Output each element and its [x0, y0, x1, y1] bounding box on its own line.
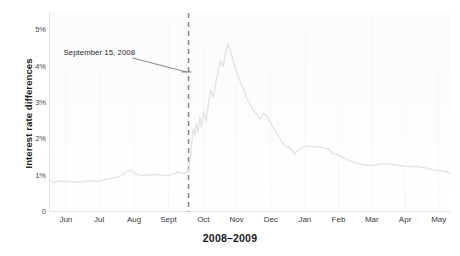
- y-axis-title: Interest rate differences: [23, 34, 34, 194]
- data-series-line: [49, 44, 450, 183]
- annotation-label: September 15, 2008: [64, 48, 136, 57]
- y-tick-label: 3%: [18, 99, 46, 107]
- chart-figure: Interest rate differences 2008–2009 01%2…: [0, 0, 460, 256]
- gridlines: [66, 12, 439, 212]
- plot-area: [49, 12, 450, 212]
- annotation-leader-line: [133, 58, 192, 72]
- y-tick-label: 5%: [18, 26, 46, 34]
- y-tick-label: 4%: [18, 63, 46, 71]
- plot-frame: [49, 12, 450, 212]
- y-tick-label: 2%: [18, 135, 46, 143]
- y-tick-label: 0: [18, 208, 46, 216]
- chart-canvas: [49, 12, 450, 212]
- x-tick-label: May: [419, 215, 459, 224]
- x-axis-title: 2008–2009: [0, 232, 460, 244]
- y-tick-label: 1%: [18, 172, 46, 180]
